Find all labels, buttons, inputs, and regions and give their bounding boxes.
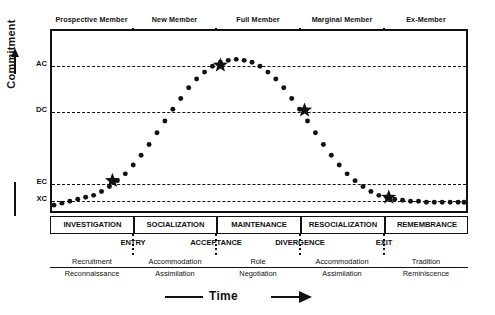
process-pair-numerator: Tradition [384, 257, 468, 268]
process-stage-2: SOCIALIZATION [134, 217, 217, 233]
commitment-level-label-xc: XC [25, 195, 47, 203]
process-pair-numerator: Accommodation [300, 257, 384, 268]
process-stage-5: REMEMBRANCE [385, 217, 469, 233]
process-pair-denominator: Reconnaissance [50, 268, 134, 278]
time-axis: Time [165, 288, 340, 308]
y-axis-label: Commitment [5, 5, 17, 103]
process-stage-divider [133, 217, 135, 233]
process-stage-band: INVESTIGATIONSOCIALIZATIONMAINTENANCERES… [50, 216, 468, 234]
membership-phase-3: Full Member [216, 13, 300, 27]
process-stage-4: RESOCIALIZATION [301, 217, 385, 233]
right-arrow-icon [299, 291, 312, 303]
dotted-connector-upper [132, 234, 134, 246]
gridline-ec [52, 184, 466, 185]
turning-point-row: ENTRYACCEPTANCEDIVERGENCEEXIT [50, 237, 468, 249]
process-pair-denominator: Reminiscence [384, 268, 468, 278]
process-pair-2: AccommodationAssimilation [133, 257, 217, 278]
process-pair-denominator: Assimilation [133, 268, 217, 278]
commitment-level-label-dc: DC [25, 106, 47, 114]
divergence-star [297, 102, 312, 116]
commitment-level-label-ec: EC [25, 178, 47, 186]
process-stage-divider [384, 217, 386, 233]
time-axis-line-right [271, 296, 301, 298]
x-axis-label: Time [209, 288, 238, 305]
process-pair-3: RoleNegotiation [216, 257, 300, 278]
membership-phase-2: New Member [133, 13, 216, 27]
acceptance-star [213, 57, 228, 71]
process-pair-5: TraditionReminiscence [384, 257, 468, 278]
process-pair-denominator: Assimilation [300, 268, 384, 278]
gridline-dc [52, 112, 466, 113]
gridline-xc [52, 201, 466, 202]
process-stage-divider [216, 217, 218, 233]
membership-phase-5: Ex-Member [384, 13, 468, 27]
process-pair-4: AccommodationAssimilation [300, 257, 384, 278]
process-pair-numerator: Accommodation [133, 257, 217, 268]
process-pair-numerator: Recruitment [50, 257, 134, 268]
membership-phase-band: Prospective MemberNew MemberFull MemberM… [50, 13, 468, 28]
plot-area [50, 29, 468, 213]
time-axis-line-left [165, 296, 203, 298]
membership-phase-1: Prospective Member [50, 13, 133, 27]
gridline-ac [52, 66, 466, 67]
process-pair-numerator: Role [216, 257, 300, 268]
commitment-level-label-ac: AC [25, 60, 47, 68]
process-stage-1: INVESTIGATION [51, 217, 134, 233]
process-pair-denominator: Negotiation [216, 268, 300, 278]
process-stage-divider [300, 217, 302, 233]
process-pair-1: RecruitmentReconnaissance [50, 257, 134, 278]
process-stage-3: MAINTENANCE [217, 217, 301, 233]
dotted-connector-upper [383, 234, 385, 246]
commitment-level-labels: ACDCECXC [22, 29, 47, 213]
dotted-connector-upper [215, 234, 217, 246]
membership-phase-4: Marginal Member [300, 13, 384, 27]
dotted-connector-upper [299, 234, 301, 246]
commitment-axis-tail [14, 182, 16, 216]
